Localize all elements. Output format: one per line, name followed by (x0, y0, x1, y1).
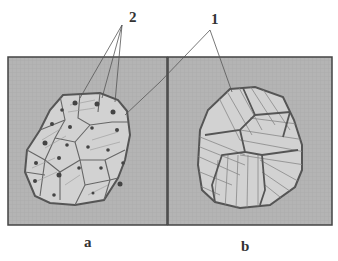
panel-b-caption: b (241, 238, 249, 255)
panel-a-caption: a (84, 234, 92, 251)
callout-label-2: 2 (129, 9, 137, 26)
callout-label-1: 1 (211, 11, 219, 28)
diagram-canvas (0, 0, 338, 261)
